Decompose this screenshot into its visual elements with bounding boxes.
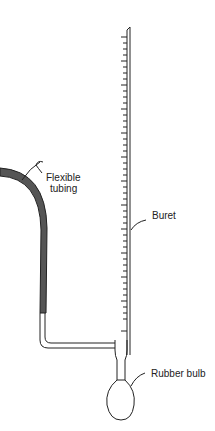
flexible-tubing xyxy=(0,168,47,313)
side-arm-tube xyxy=(40,313,115,348)
buret xyxy=(127,27,130,355)
label-flexible-tubing-line2: tubing xyxy=(46,183,80,194)
label-flexible-tubing: Flexible tubing xyxy=(46,172,80,194)
label-flexible-tubing-line1: Flexible xyxy=(46,172,80,183)
buret-lower-section xyxy=(115,340,127,380)
label-buret: Buret xyxy=(152,210,176,221)
label-rubber-bulb: Rubber bulb xyxy=(151,368,205,379)
rubber-bulb xyxy=(107,380,135,420)
buret-graduations xyxy=(121,37,127,331)
apparatus-diagram xyxy=(0,0,215,431)
